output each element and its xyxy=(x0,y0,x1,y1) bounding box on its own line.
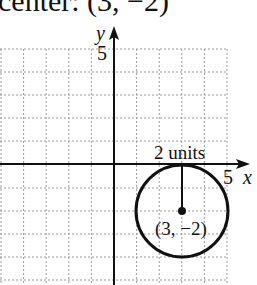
x-tick-label: 5 xyxy=(223,166,233,188)
coordinate-plane: y 5 2 units 5 x (3, −2) xyxy=(0,0,257,285)
y-tick-label: 5 xyxy=(97,42,107,64)
radius-label: 2 units xyxy=(154,142,205,163)
x-axis-label: x xyxy=(242,166,252,188)
center-point xyxy=(178,207,186,215)
center-label: (3, −2) xyxy=(155,218,207,240)
